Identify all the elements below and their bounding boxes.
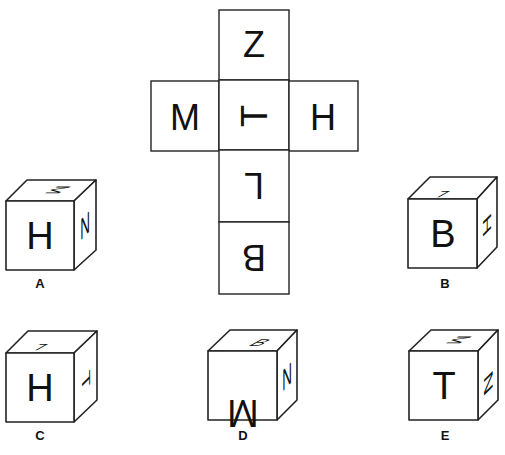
option-b-label: B (440, 276, 449, 291)
option-a-label: A (35, 276, 45, 291)
option-b-cube[interactable]: B L H B (408, 177, 497, 291)
cube-c-front-letter: H (26, 367, 53, 409)
cube-net: Z M T H L B (151, 10, 358, 294)
net-letter-z: Z (243, 24, 265, 65)
option-e-cube[interactable]: T M N E (409, 330, 498, 443)
net-letter-h: H (310, 97, 336, 138)
option-d-cube[interactable]: M B N D (208, 330, 297, 443)
option-d-label: D (238, 428, 247, 443)
cube-b-front-letter: B (430, 213, 455, 255)
net-letter-t: T (234, 105, 275, 127)
net-letter-m: M (170, 97, 200, 138)
cube-a-front-letter: H (26, 215, 53, 257)
option-a-cube[interactable]: H M N A (6, 180, 96, 291)
net-letter-l: L (244, 165, 264, 206)
option-e-label: E (441, 428, 450, 443)
option-c-cube[interactable]: H L T C (6, 331, 97, 443)
cube-e-front-letter: T (432, 365, 455, 407)
net-letter-b: B (242, 237, 266, 278)
cube-puzzle-diagram: Z M T H L B H M N A B L H B H (0, 0, 505, 455)
option-c-label: C (35, 428, 45, 443)
